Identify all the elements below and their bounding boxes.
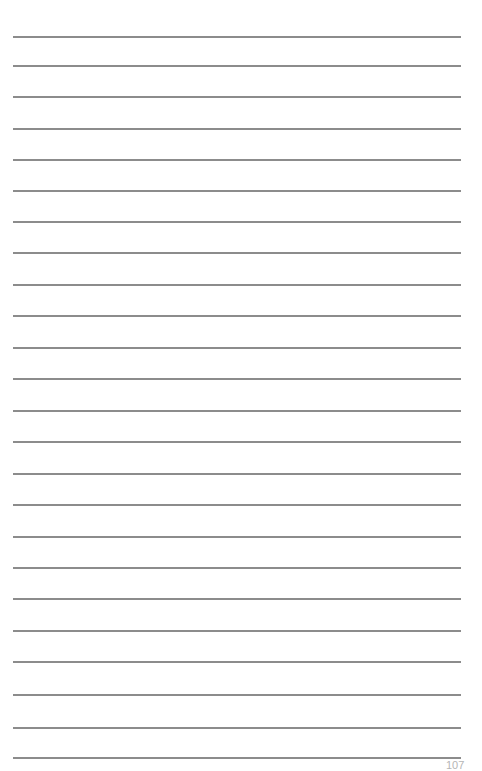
ruled-line	[13, 757, 461, 759]
ruled-line	[13, 252, 461, 254]
ruled-line	[13, 694, 461, 696]
ruled-line	[13, 190, 461, 192]
ruled-line	[13, 284, 461, 286]
ruled-line	[13, 347, 461, 349]
ruled-line	[13, 441, 461, 443]
ruled-line	[13, 410, 461, 412]
ruled-line	[13, 315, 461, 317]
ruled-line	[13, 536, 461, 538]
ruled-line	[13, 504, 461, 506]
ruled-line	[13, 378, 461, 380]
ruled-line	[13, 159, 461, 161]
ruled-line	[13, 473, 461, 475]
ruled-line	[13, 96, 461, 98]
ruled-line	[13, 221, 461, 223]
ruled-line	[13, 630, 461, 632]
ruled-line	[13, 128, 461, 130]
page-number: 107	[446, 760, 464, 771]
ruled-line	[13, 598, 461, 600]
ruled-line	[13, 567, 461, 569]
ruled-line	[13, 727, 461, 729]
ruled-line	[13, 36, 461, 38]
ruled-line	[13, 65, 461, 67]
ruled-line	[13, 661, 461, 663]
